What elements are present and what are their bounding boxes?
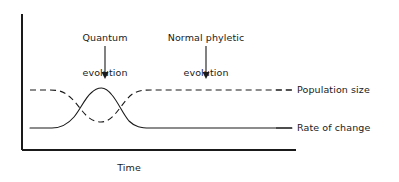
series-label-rate-of-change: Rate of change (297, 122, 370, 134)
annotation-label-phyletic: Normal phyletic evolution (163, 9, 249, 101)
annotation-label-quantum-line2: evolution (62, 67, 148, 79)
x-axis-label: Time (112, 162, 146, 174)
annotation-label-phyletic-line2: evolution (163, 67, 249, 79)
annotation-label-phyletic-line1: Normal phyletic (163, 32, 249, 44)
annotation-label-quantum-line1: Quantum (62, 32, 148, 44)
series-label-population-size: Population size (297, 84, 370, 96)
annotation-label-quantum: Quantum evolution (62, 9, 148, 101)
evolution-diagram-figure: Quantum evolution Normal phyletic evolut… (0, 0, 399, 182)
